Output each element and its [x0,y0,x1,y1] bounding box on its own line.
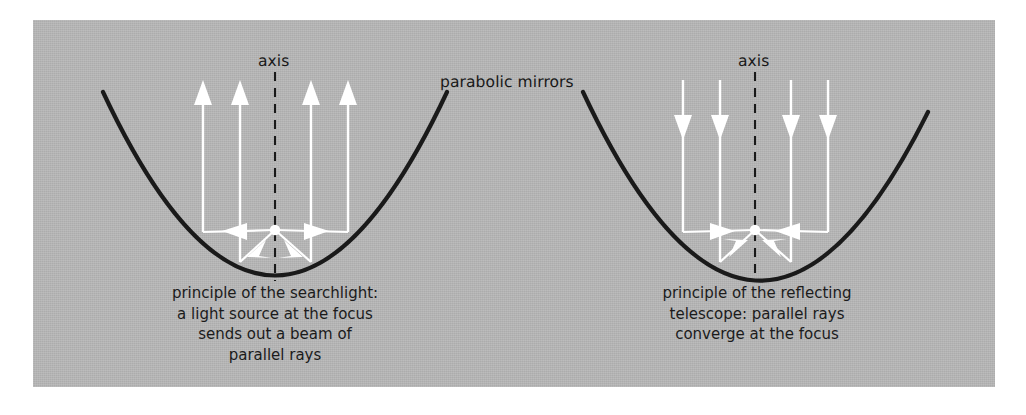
right-caption-line-2: telescope: parallel rays [612,304,902,325]
left-focus-arrowhead-4 [304,223,329,240]
left-ray-arrowhead-1 [194,80,212,105]
left-ray-arrowhead-4 [339,80,357,105]
left-focus-point [270,225,280,235]
right-focus-arrowhead-4 [775,223,800,240]
right-ray-arrowhead-1 [674,115,692,140]
parabolic-mirrors-label: parabolic mirrors [440,73,574,91]
left-focus-arrowhead-1 [222,223,247,240]
right-focus-arrowhead-1 [710,223,735,240]
left-caption: principle of the searchlight: a light so… [130,283,420,365]
left-caption-line-3: sends out a beam of [130,324,420,345]
right-ray-arrowhead-3 [782,115,800,140]
left-ray-arrowhead-3 [302,80,320,105]
right-caption: principle of the reflecting telescope: p… [612,283,902,345]
right-focus-point [750,225,760,235]
right-ray-arrowhead-2 [711,115,729,140]
left-parabolic-mirror [103,92,447,276]
right-diagram-group [583,72,928,281]
figure-root: axis axis parabolic mirrors principle of… [0,0,1026,415]
left-caption-line-2: a light source at the focus [130,304,420,325]
left-diagram-group [103,72,447,281]
left-caption-line-4: parallel rays [130,345,420,366]
right-caption-line-3: converge at the focus [612,324,902,345]
right-focus-arrowhead-2 [723,239,748,257]
left-caption-line-1: principle of the searchlight: [130,283,420,304]
left-axis-label: axis [258,52,289,70]
right-axis-label: axis [738,52,769,70]
left-ray-arrowhead-2 [231,80,249,105]
right-ray-arrowhead-4 [819,115,837,140]
right-caption-line-1: principle of the reflecting [612,283,902,304]
